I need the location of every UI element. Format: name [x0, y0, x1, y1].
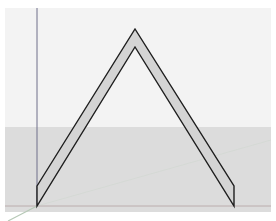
model-viewport[interactable]: [0, 0, 276, 221]
green-axis-line: [8, 206, 37, 221]
chevron-face[interactable]: [37, 29, 234, 206]
scene-canvas[interactable]: [0, 0, 276, 221]
